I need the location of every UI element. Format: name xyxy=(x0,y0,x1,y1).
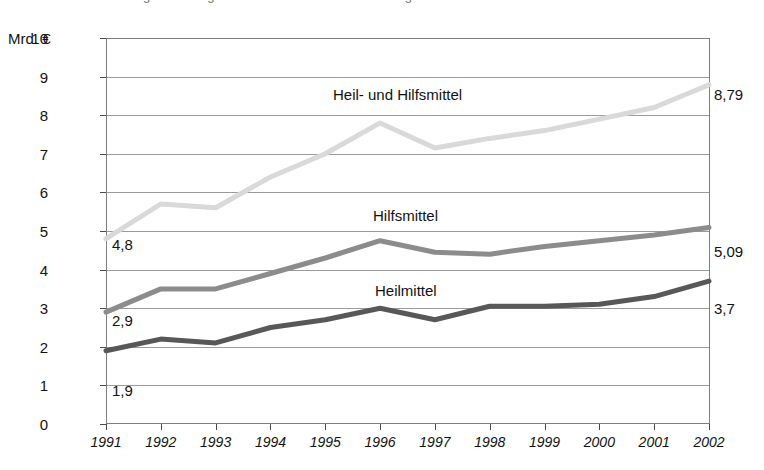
series-label-heilmittel: Heilmittel xyxy=(375,282,437,299)
y-axis-tick-mark xyxy=(100,77,106,78)
y-axis-tick-mark xyxy=(100,154,106,155)
series-label-hilfsmittel: Hilfsmittel xyxy=(373,207,438,224)
y-axis-tick-label: 1 xyxy=(40,377,48,394)
chart-container: Ausgaben der gesetzlichen Krankenversich… xyxy=(0,0,764,470)
x-axis-tick-mark xyxy=(709,424,710,430)
value-label-remedies-start: 1,9 xyxy=(112,382,133,399)
x-axis-tick-mark xyxy=(380,424,381,430)
x-axis-tick-mark xyxy=(106,424,107,430)
x-axis-tick-mark xyxy=(161,424,162,430)
gridline xyxy=(107,347,709,348)
x-axis-tick-mark xyxy=(325,424,326,430)
y-axis-tick-label: 3 xyxy=(40,300,48,317)
gridline xyxy=(107,308,709,309)
y-axis-tick-mark xyxy=(100,192,106,193)
x-axis-tick-mark xyxy=(654,424,655,430)
x-axis-tick-mark xyxy=(270,424,271,430)
x-axis-tick-label: 1995 xyxy=(310,434,341,450)
gridline xyxy=(107,385,709,386)
page-title: Ausgaben der gesetzlichen Krankenversich… xyxy=(120,0,412,3)
x-axis-tick-label: 1998 xyxy=(474,434,505,450)
cropped-title-strip: Ausgaben der gesetzlichen Krankenversich… xyxy=(0,0,764,12)
x-axis-tick-label: 1996 xyxy=(365,434,396,450)
x-axis-tick-mark xyxy=(216,424,217,430)
x-axis-tick-label: 2002 xyxy=(693,434,724,450)
x-axis-tick-label: 1997 xyxy=(419,434,450,450)
x-axis-tick-label: 1994 xyxy=(255,434,286,450)
y-axis-tick-label: 9 xyxy=(40,68,48,85)
x-axis-tick-label: 2000 xyxy=(584,434,615,450)
y-axis-tick-label: 4 xyxy=(40,261,48,278)
gridline xyxy=(107,115,709,116)
y-axis-tick-label: 7 xyxy=(40,145,48,162)
gridline xyxy=(107,77,709,78)
y-axis-tick-mark xyxy=(100,385,106,386)
value-label-remedies-end: 3,7 xyxy=(714,300,735,317)
x-axis-tick-label: 2001 xyxy=(639,434,670,450)
x-axis-tick-mark xyxy=(599,424,600,430)
y-axis-tick-label: 0 xyxy=(40,416,48,433)
value-label-aids-end: 5,09 xyxy=(714,243,743,260)
x-axis-tick-mark xyxy=(545,424,546,430)
x-axis-tick-mark xyxy=(435,424,436,430)
y-axis-tick-mark xyxy=(100,347,106,348)
gridline xyxy=(107,154,709,155)
y-axis-tick-label: 6 xyxy=(40,184,48,201)
value-label-total-end: 8,79 xyxy=(714,86,743,103)
gridline xyxy=(107,231,709,232)
y-axis-tick-mark xyxy=(100,38,106,39)
x-axis-tick-label: 1991 xyxy=(90,434,121,450)
gridline xyxy=(107,192,709,193)
series-label-heil-und-hilfsmittel: Heil- und Hilfsmittel xyxy=(333,86,462,103)
value-label-aids-start: 2,9 xyxy=(112,312,133,329)
x-axis-tick-label: 1992 xyxy=(145,434,176,450)
y-axis-tick-mark xyxy=(100,308,106,309)
y-axis-tick-mark xyxy=(100,231,106,232)
x-axis-tick-label: 1999 xyxy=(529,434,560,450)
y-axis-tick-label: 10 xyxy=(31,30,48,47)
gridline xyxy=(107,270,709,271)
y-axis-tick-label: 2 xyxy=(40,338,48,355)
y-axis-tick-mark xyxy=(100,270,106,271)
value-label-total-start: 4,8 xyxy=(112,236,133,253)
y-axis-tick-label: 8 xyxy=(40,107,48,124)
x-axis-tick-mark xyxy=(490,424,491,430)
y-axis-tick-label: 5 xyxy=(40,223,48,240)
y-axis-tick-mark xyxy=(100,115,106,116)
x-axis-tick-label: 1993 xyxy=(200,434,231,450)
